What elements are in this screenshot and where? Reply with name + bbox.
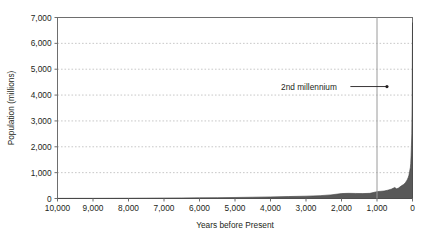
x-tick-label-9000: 9,000 (83, 203, 104, 213)
y-tick-label-6000: 6,000 (31, 38, 52, 48)
x-axis-title: Years before Present (196, 220, 274, 230)
x-tick-label-7000: 7,000 (154, 203, 175, 213)
x-tick-label-8000: 8,000 (118, 203, 139, 213)
y-tick-label-3000: 3,000 (31, 116, 52, 126)
x-tick-label-3000: 3,000 (296, 203, 317, 213)
x-tick-label-5000: 5,000 (225, 203, 246, 213)
chart-svg: 10,0009,0008,0007,0006,0005,0004,0003,00… (0, 0, 428, 239)
y-tick-label-7000: 7,000 (31, 13, 52, 23)
2nd-millennium-annotation-label: 2nd millennium (281, 82, 337, 92)
x-tick-label-0: 0 (410, 203, 415, 213)
y-tick-label-4000: 4,000 (31, 90, 52, 100)
x-tick-label-10000: 10,000 (45, 203, 71, 213)
x-tick-label-1000: 1,000 (367, 203, 388, 213)
x-tick-label-4000: 4,000 (260, 203, 281, 213)
x-tick-label-6000: 6,000 (189, 203, 210, 213)
x-tick-label-2000: 2,000 (331, 203, 352, 213)
2nd-millennium-annotation-arrow-head (385, 85, 388, 88)
y-tick-label-5000: 5,000 (31, 64, 52, 74)
y-axis-title: Population (millions) (6, 70, 16, 145)
population-chart-figure: 10,0009,0008,0007,0006,0005,0004,0003,00… (0, 0, 428, 239)
y-tick-label-0: 0 (47, 194, 52, 204)
y-tick-label-2000: 2,000 (31, 142, 52, 152)
y-tick-label-1000: 1,000 (31, 168, 52, 178)
